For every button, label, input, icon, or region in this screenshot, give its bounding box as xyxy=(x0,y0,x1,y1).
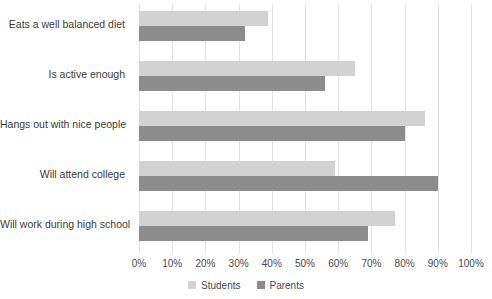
x-tick-label: 10% xyxy=(162,257,182,270)
parents-swatch xyxy=(257,281,265,289)
x-tick-label: 100% xyxy=(458,257,484,270)
bar-parents xyxy=(139,176,438,191)
bar-parents xyxy=(139,76,325,91)
x-tick-label: 90% xyxy=(428,257,448,270)
legend-label: Parents xyxy=(270,280,304,291)
bar-students xyxy=(139,11,268,26)
category-label: Hangs out with nice people xyxy=(0,118,125,130)
x-tick-label: 0% xyxy=(132,257,146,270)
x-tick-label: 50% xyxy=(295,257,315,270)
x-tick-label: 30% xyxy=(229,257,249,270)
x-tick-label: 20% xyxy=(195,257,215,270)
grouped-bar-chart: Eats a well balanced dietIs active enoug… xyxy=(0,0,492,299)
category-label: Eats a well balanced diet xyxy=(0,18,125,30)
category-label: Will work during high school xyxy=(0,218,125,230)
legend-item-parents[interactable]: Parents xyxy=(257,280,304,291)
students-swatch xyxy=(188,281,196,289)
x-tick-label: 70% xyxy=(361,257,381,270)
bar-parents xyxy=(139,226,368,241)
category-axis-labels: Eats a well balanced dietIs active enoug… xyxy=(0,4,132,254)
bar-rows xyxy=(139,4,471,254)
bar-group xyxy=(139,104,471,154)
category-label: Will attend college xyxy=(0,168,125,180)
bar-group xyxy=(139,204,471,254)
bar-group xyxy=(139,154,471,204)
legend-item-students[interactable]: Students xyxy=(188,280,240,291)
bar-students xyxy=(139,61,355,76)
chart-legend: StudentsParents xyxy=(0,278,492,292)
bar-parents xyxy=(139,126,405,141)
plot-area xyxy=(139,4,471,254)
bar-students xyxy=(139,211,395,226)
legend-label: Students xyxy=(201,280,240,291)
bar-students xyxy=(139,111,425,126)
x-axis-tick-labels: 0%10%20%30%40%50%60%70%80%90%100% xyxy=(0,257,492,273)
x-tick-label: 40% xyxy=(262,257,282,270)
bar-group xyxy=(139,54,471,104)
bar-parents xyxy=(139,26,245,41)
x-tick-label: 60% xyxy=(328,257,348,270)
category-label: Is active enough xyxy=(0,68,125,80)
bar-students xyxy=(139,161,335,176)
gridline xyxy=(471,4,472,254)
x-tick-label: 80% xyxy=(395,257,415,270)
bar-group xyxy=(139,4,471,54)
